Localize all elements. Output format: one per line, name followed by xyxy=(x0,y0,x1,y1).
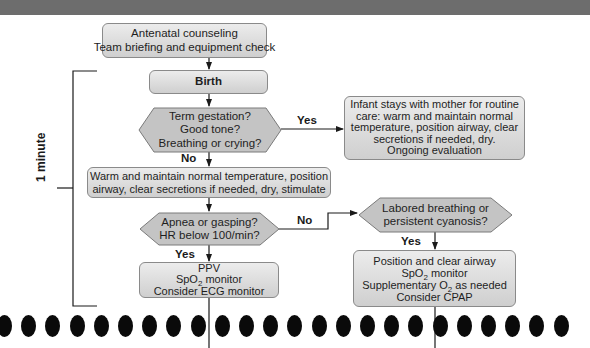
binding-holes xyxy=(0,315,590,339)
binding-hole-dot xyxy=(94,315,109,337)
airway-o2-text: Supplementary O xyxy=(362,279,448,291)
decision2-line-2: HR below 100/min? xyxy=(159,229,259,243)
birth-label: Birth xyxy=(195,75,222,89)
decision1-line-2: Good tone? xyxy=(180,123,240,137)
decision2-line-1: Apnea or gasping? xyxy=(161,216,258,230)
airway-as-needed-text: as needed xyxy=(452,279,506,291)
binding-hole-dot xyxy=(287,315,302,337)
time-bracket-label: 1 minute xyxy=(34,133,48,182)
ppv-line-3: Consider ECG monitor xyxy=(154,286,265,298)
binding-hole-dot xyxy=(118,315,133,337)
ppv-spo-text: SpO xyxy=(176,273,198,285)
decision-term-tone-breathing: Term gestation? Good tone? Breathing or … xyxy=(138,107,282,153)
binding-hole-dot xyxy=(142,315,157,337)
airway-monitor-text: monitor xyxy=(428,267,468,279)
binding-hole-dot xyxy=(554,315,569,337)
binding-hole-dot xyxy=(21,315,36,337)
initial-line-2: airway, clear secretions if needed, dry,… xyxy=(92,183,325,196)
birth-box: Birth xyxy=(149,70,268,94)
routine-care-box: Infant stays with mother for routine car… xyxy=(344,96,525,160)
binding-hole-dot xyxy=(529,315,544,337)
decision1-line-1: Term gestation? xyxy=(169,110,251,124)
binding-hole-dot xyxy=(505,315,520,337)
ppv-box: PPV SpO2 monitor Consider ECG monitor xyxy=(139,262,279,298)
decision2-yes-label: Yes xyxy=(175,248,195,260)
binding-hole-dot xyxy=(70,315,85,337)
decision3-line-2: persistent cyanosis? xyxy=(383,215,487,229)
routine-line-5: Ongoing evaluation xyxy=(387,145,482,157)
binding-hole-dot xyxy=(166,315,181,337)
binding-hole-dot xyxy=(215,315,230,337)
initial-steps-box: Warm and maintain normal temperature, po… xyxy=(87,167,331,198)
binding-hole-dot xyxy=(433,315,448,337)
decision-apnea-hr: Apnea or gasping? HR below 100/min? xyxy=(139,212,280,246)
binding-hole-dot xyxy=(239,315,254,337)
binding-hole-dot xyxy=(312,315,327,337)
airway-support-box: Position and clear airway SpO2 monitor S… xyxy=(353,250,516,307)
airway-line-1: Position and clear airway xyxy=(373,255,495,267)
decision3-line-1: Labored breathing or xyxy=(382,202,489,216)
binding-hole-dot xyxy=(408,315,423,337)
binding-hole-dot xyxy=(384,315,399,337)
decision1-line-3: Breathing or crying? xyxy=(159,137,262,151)
binding-hole-dot xyxy=(457,315,472,337)
decision1-yes-label: Yes xyxy=(297,114,317,126)
initial-line-1: Warm and maintain normal temperature, po… xyxy=(90,170,328,183)
binding-hole-dot xyxy=(191,315,206,337)
binding-hole-dot xyxy=(45,315,60,337)
ppv-monitor-text: monitor xyxy=(202,273,242,285)
antenatal-counseling-box: Antenatal counseling Team briefing and e… xyxy=(102,23,267,58)
decision2-no-label: No xyxy=(297,214,312,226)
decision3-yes-label: Yes xyxy=(401,235,421,247)
decision1-no-label: No xyxy=(181,152,196,164)
decision-labored-breathing: Labored breathing or persistent cyanosis… xyxy=(358,197,513,233)
binding-hole-dot xyxy=(481,315,496,337)
binding-hole-dot xyxy=(336,315,351,337)
start-line-2: Team briefing and equipment check xyxy=(94,41,276,55)
airway-spo-text: SpO xyxy=(401,267,423,279)
binding-hole-dot xyxy=(263,315,278,337)
airway-line-3: Supplementary O2 as needed xyxy=(362,279,507,291)
airway-line-2: SpO2 monitor xyxy=(401,267,467,279)
airway-line-4: Consider CPAP xyxy=(396,291,472,303)
binding-hole-dot xyxy=(0,315,12,337)
binding-hole-dot xyxy=(360,315,375,337)
start-line-1: Antenatal counseling xyxy=(131,27,238,41)
